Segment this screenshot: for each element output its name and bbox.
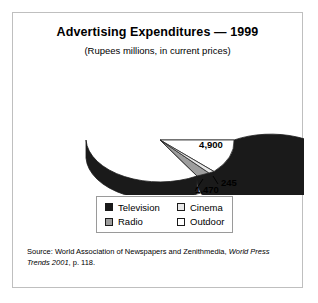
pie-value-television: 23,765 <box>145 105 175 116</box>
chart-title: Advertising Expenditures — 1999 <box>13 25 302 39</box>
pie-value-cinema: 4,900 <box>199 139 223 150</box>
legend-item-cinema[interactable]: Cinema <box>177 203 242 213</box>
chart-subtitle: (Rupees millions, in current prices) <box>13 45 302 56</box>
figure-frame: Advertising Expenditures — 1999 (Rupees … <box>12 12 303 288</box>
source-suffix: , p. 118. <box>69 258 96 267</box>
source-note: Source: World Association of Newspapers … <box>27 247 285 269</box>
legend-swatch-outdoor <box>177 218 185 226</box>
pie-chart: 23,765 4,900 1,470 245 <box>13 69 304 195</box>
legend-item-outdoor[interactable]: Outdoor <box>177 217 242 227</box>
pie-value-outdoor: 245 <box>221 177 238 188</box>
legend-swatch-television <box>105 203 113 211</box>
legend-item-radio[interactable]: Radio <box>105 217 177 227</box>
legend-label-cinema: Cinema <box>190 203 223 213</box>
chart-legend: Television Cinema Radio Outdoor <box>96 196 233 233</box>
legend-swatch-radio <box>105 218 113 226</box>
legend-label-outdoor: Outdoor <box>190 217 224 227</box>
pie-chart-svg: 23,765 4,900 1,470 245 <box>13 69 304 195</box>
legend-item-television[interactable]: Television <box>105 203 177 213</box>
legend-label-radio: Radio <box>118 217 143 227</box>
pie-value-radio: 1,470 <box>195 184 219 195</box>
legend-label-television: Television <box>118 203 160 213</box>
source-prefix: Source: World Association of Newspapers … <box>27 247 229 256</box>
legend-swatch-cinema <box>177 203 185 211</box>
